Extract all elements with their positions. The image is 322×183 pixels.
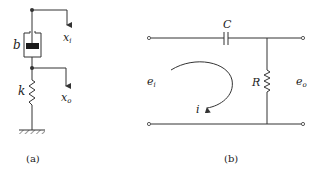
damper-label: b [13,38,21,52]
capacitor-label: C [223,18,232,31]
caption-b: (b) [224,153,238,164]
spring-icon [29,80,35,105]
caption-a: (a) [26,153,40,164]
input-displacement-label: xi [63,31,71,45]
rc-circuit: C R ei eo i (b) [147,18,307,164]
input-terminal-top [147,36,150,39]
ground-icon [19,130,45,134]
resistor-label: R [251,76,260,89]
input-voltage-label: ei [147,75,156,89]
capacitor-icon [224,32,228,45]
current-loop-arrow-icon [171,62,232,108]
resistor-icon [264,70,270,92]
mechanical-system: xi b xo k (a) [13,8,71,164]
figure-canvas: xi b xo k (a) [0,0,322,183]
spring-label: k [18,84,25,98]
current-label: i [196,103,200,116]
input-terminal-bottom [147,122,150,125]
output-terminal-top [301,36,304,39]
output-terminal-bottom [301,122,304,125]
output-voltage-label: eo [296,75,307,89]
output-displacement-label: xo [61,91,71,105]
